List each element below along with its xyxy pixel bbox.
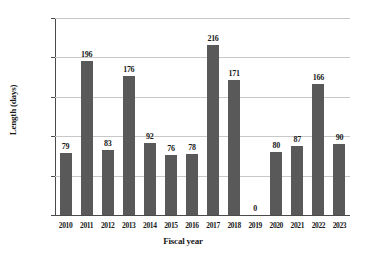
bar-value-label-2017: 216 [198, 34, 228, 43]
bar-value-label-2022: 166 [303, 73, 333, 82]
bar-value-label-2010: 79 [51, 142, 81, 151]
bar-2013[interactable] [123, 76, 135, 215]
gridline-150 [55, 97, 350, 98]
bar-2014[interactable] [144, 143, 156, 215]
gridline-50 [55, 176, 350, 177]
bar-2016[interactable] [186, 154, 198, 215]
bar-chart-figure: Length (days) 050100150200250 7919683176… [0, 0, 366, 264]
bar-2011[interactable] [81, 61, 93, 215]
bar-2012[interactable] [102, 150, 114, 215]
bar-value-label-2016: 78 [177, 143, 207, 152]
bar-value-label-2013: 176 [114, 65, 144, 74]
y-axis-title: Length (days) [8, 55, 18, 165]
bar-2015[interactable] [165, 155, 177, 215]
plot-area [55, 18, 350, 215]
x-axis-title: Fiscal year [0, 236, 366, 246]
bar-value-label-2014: 92 [135, 132, 165, 141]
bar-2010[interactable] [60, 153, 72, 215]
bar-2017[interactable] [207, 45, 219, 215]
x-tick-label-2023: 2023 [324, 221, 354, 230]
bar-value-label-2012: 83 [93, 139, 123, 148]
bar-2020[interactable] [270, 152, 282, 215]
bar-2021[interactable] [291, 146, 303, 215]
bar-2022[interactable] [312, 84, 324, 215]
bar-value-label-2023: 90 [324, 133, 354, 142]
bar-value-label-2011: 196 [72, 50, 102, 59]
bar-2023[interactable] [333, 144, 345, 215]
bar-value-label-2018: 171 [219, 69, 249, 78]
bar-value-label-2021: 87 [282, 135, 312, 144]
bar-2018[interactable] [228, 80, 240, 215]
gridline-250 [55, 18, 350, 19]
bar-value-label-2019: 0 [240, 204, 270, 213]
gridline-0 [55, 215, 350, 216]
